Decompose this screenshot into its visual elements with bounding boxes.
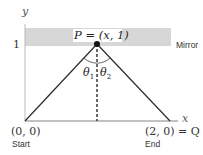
end-label: End (145, 139, 160, 149)
y-tick-label: 1 (13, 38, 20, 51)
end-coords: (2, 0) = Q (145, 125, 200, 138)
theta2-label: θ2 (100, 66, 111, 81)
theta2-text: θ2 (100, 66, 111, 79)
reflected-ray (97, 44, 170, 121)
x-axis-label: x (182, 112, 188, 125)
incident-ray (25, 44, 97, 121)
mirror-label: Mirror (176, 40, 198, 50)
theta1-label: θ1 (83, 66, 94, 81)
start-coords: (0, 0) (11, 125, 41, 138)
theta1-text: θ1 (83, 66, 94, 79)
y-axis-label: y (22, 5, 28, 18)
point-p-label: P = (x, 1) (74, 28, 129, 42)
start-label: Start (12, 139, 30, 149)
